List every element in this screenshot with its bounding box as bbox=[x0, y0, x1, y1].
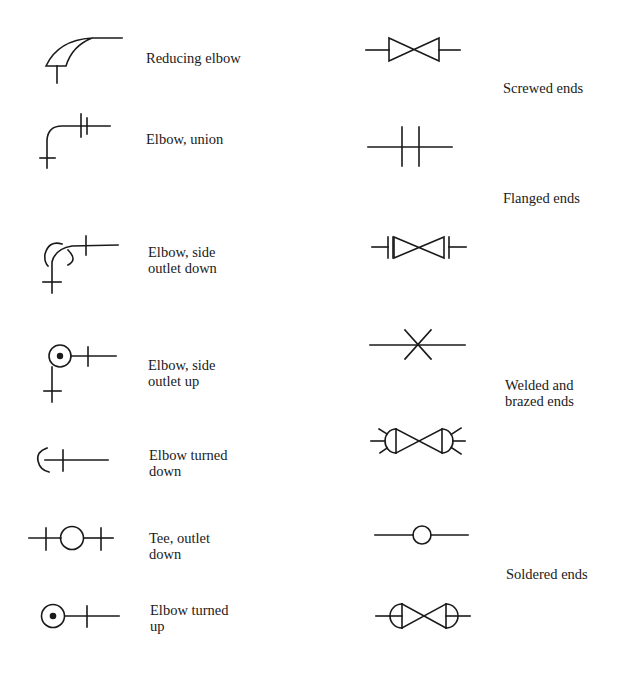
soldered-gate-valve-icon bbox=[0, 0, 619, 678]
